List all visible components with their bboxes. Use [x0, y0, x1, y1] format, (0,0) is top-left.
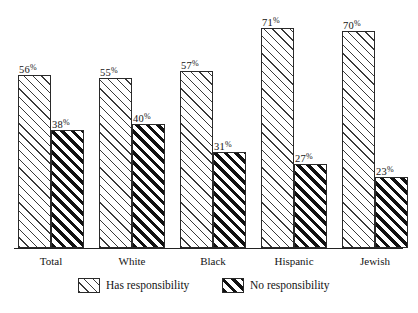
- bar-jewish-has-responsibility: [342, 31, 375, 248]
- value-label-black-no-responsibility: 31%: [214, 139, 232, 152]
- value-label-hispanic-has-responsibility: 71%: [262, 15, 280, 28]
- value-label-total-has-responsibility: 56%: [19, 62, 37, 75]
- legend-label-no-responsibility: No responsibility: [250, 278, 330, 292]
- value-label-white-has-responsibility: 55%: [100, 65, 118, 78]
- x-axis-label-hispanic: Hispanic: [249, 254, 339, 268]
- legend-label-has-responsibility: Has responsibility: [106, 278, 189, 292]
- x-axis-label-total: Total: [6, 254, 96, 268]
- bar-white-no-responsibility: [132, 124, 165, 248]
- x-axis-label-white: White: [87, 254, 177, 268]
- legend-item-no-responsibility: No responsibility: [222, 275, 330, 295]
- x-axis-label-jewish: Jewish: [330, 254, 418, 268]
- bar-black-has-responsibility: [180, 71, 213, 248]
- chart-legend: Has responsibility No responsibility: [0, 275, 418, 297]
- value-label-jewish-has-responsibility: 70%: [343, 18, 361, 31]
- bar-chart-figure: 56%38%55%40%57%31%71%27%70%23% Total Whi…: [0, 0, 418, 313]
- bar-total-no-responsibility: [51, 130, 84, 248]
- legend-swatch-has-responsibility-icon: [78, 278, 100, 293]
- source-note: [14, 303, 404, 313]
- plot-area: 56%38%55%40%57%31%71%27%70%23%: [0, 0, 418, 252]
- x-axis-line: [14, 248, 403, 249]
- value-label-jewish-no-responsibility: 23%: [376, 164, 394, 177]
- bar-black-no-responsibility: [213, 152, 246, 248]
- bar-hispanic-no-responsibility: [294, 164, 327, 248]
- value-label-black-has-responsibility: 57%: [181, 58, 199, 71]
- bar-white-has-responsibility: [99, 78, 132, 248]
- value-label-white-no-responsibility: 40%: [133, 111, 151, 124]
- value-label-total-no-responsibility: 38%: [52, 117, 70, 130]
- bar-hispanic-has-responsibility: [261, 28, 294, 248]
- legend-swatch-no-responsibility-icon: [222, 278, 244, 293]
- bar-jewish-no-responsibility: [375, 177, 408, 248]
- legend-item-has-responsibility: Has responsibility: [78, 275, 189, 295]
- x-axis-label-black: Black: [168, 254, 258, 268]
- bar-total-has-responsibility: [18, 75, 51, 248]
- value-label-hispanic-no-responsibility: 27%: [295, 151, 313, 164]
